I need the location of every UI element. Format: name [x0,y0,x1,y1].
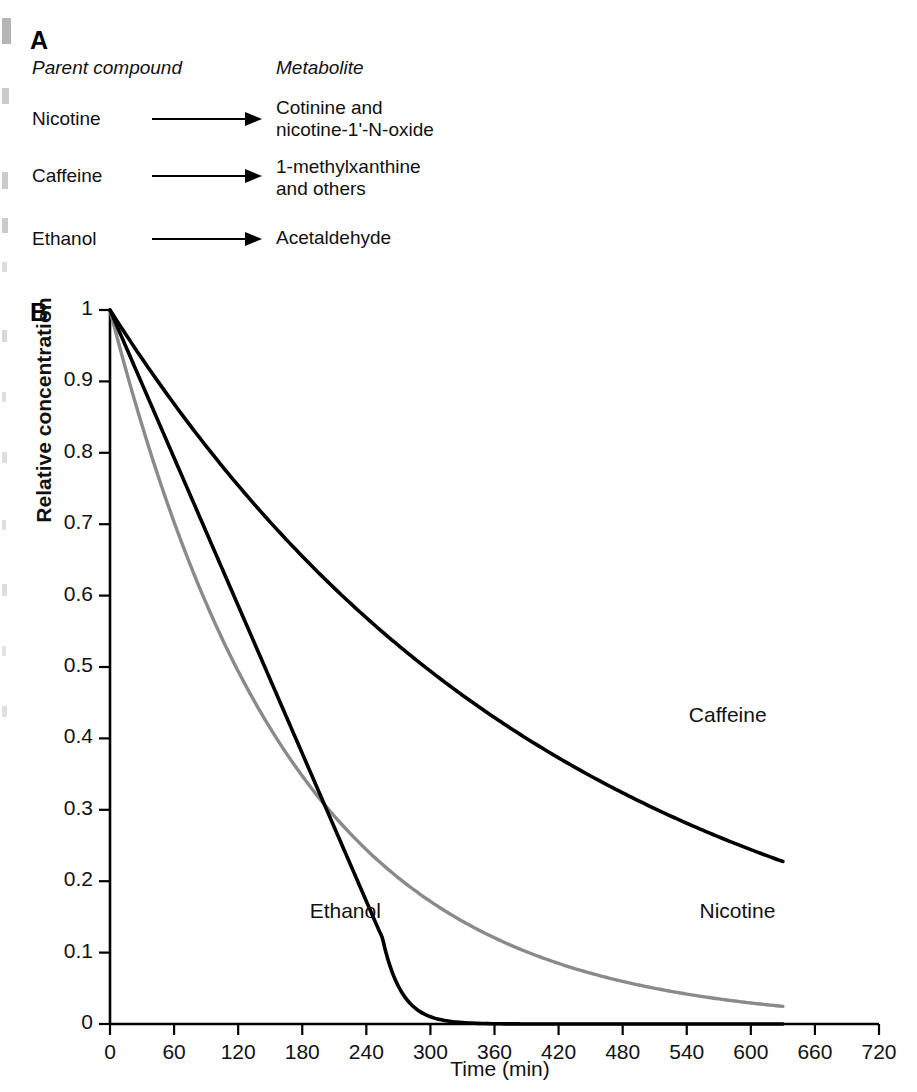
y-tick-label: 0.2 [5,867,93,891]
y-tick-label: 0.9 [5,367,93,391]
y-tick-label: 1 [5,296,93,320]
y-tick-label: 0.7 [5,510,93,534]
x-tick-label: 720 [839,1040,917,1064]
y-tick-label: 0 [5,1010,93,1034]
y-tick-label: 0.5 [5,653,93,677]
curve-label-nicotine: Nicotine [699,899,775,923]
y-tick-label: 0.8 [5,439,93,463]
figure-drug-metabolism: A Parent compound Metabolite Nicotine Co… [0,0,917,1092]
curve-caffeine [110,310,783,862]
line-chart-relative-concentration [0,0,917,1092]
y-tick-label: 0.6 [5,582,93,606]
curve-label-caffeine: Caffeine [689,703,767,727]
y-tick-label: 0.3 [5,796,93,820]
curve-label-ethanol: Ethanol [310,899,381,923]
curve-nicotine [110,310,783,1006]
y-tick-label: 0.4 [5,724,93,748]
curve-ethanol [110,310,783,1024]
y-tick-label: 0.1 [5,939,93,963]
